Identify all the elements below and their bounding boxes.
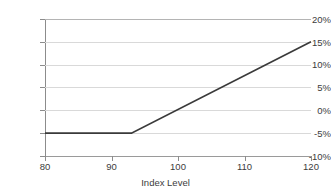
x-tick-label-80: 80: [30, 162, 60, 172]
x-axis-title: Index Level: [0, 178, 331, 188]
x-tick-label-110: 110: [230, 162, 260, 172]
y-tick-label-15: 15%: [293, 38, 331, 48]
y-tick-label-neg10: -10%: [293, 152, 331, 162]
payoff-line: [45, 42, 311, 133]
y-tick-label-neg5: -5%: [293, 129, 331, 139]
y-tick-label-5: 5%: [293, 83, 331, 93]
x-tick-label-90: 90: [97, 162, 127, 172]
x-tick-label-120: 120: [296, 162, 326, 172]
y-tick-15: [40, 42, 45, 43]
chart-container: 20% 15% 10% 5% 0% -5% -10% 80 90 100 110…: [0, 0, 331, 196]
plot-area: [45, 19, 311, 156]
y-tick-10: [40, 65, 45, 66]
y-tick-label-10: 10%: [293, 60, 331, 70]
y-tick-neg5: [40, 133, 45, 134]
y-tick-0: [40, 110, 45, 111]
y-tick-label-0: 0%: [293, 106, 331, 116]
y-tick-5: [40, 87, 45, 88]
y-tick-label-20: 20%: [293, 15, 331, 25]
series-payoff: [45, 19, 311, 156]
x-tick-label-100: 100: [163, 162, 193, 172]
y-tick-20: [40, 19, 45, 20]
